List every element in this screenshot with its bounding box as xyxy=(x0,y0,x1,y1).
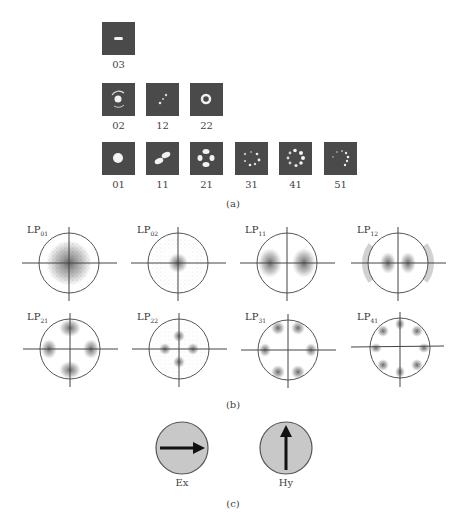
mode-12-pattern-icon xyxy=(146,83,179,116)
plot-label-lp02: LP02 xyxy=(137,224,158,237)
panel-c-caption: (c) xyxy=(213,498,253,509)
mode-label: 11 xyxy=(146,179,179,190)
polarization-diagrams xyxy=(0,415,466,485)
hy-field-diagram xyxy=(260,422,312,474)
mode-label: 03 xyxy=(102,59,135,70)
mode-01-pattern-icon xyxy=(102,142,135,175)
plot-label-lp31: LP31 xyxy=(245,311,266,324)
mode-03-pattern-icon xyxy=(102,22,135,55)
mode-image-01 xyxy=(102,142,135,175)
mode-image-11 xyxy=(146,142,179,175)
mode-label: 22 xyxy=(190,120,223,131)
mode-21-pattern-icon xyxy=(190,142,223,175)
plot-label-lp22: LP22 xyxy=(137,311,158,324)
lp-text: LP xyxy=(137,311,150,322)
lp-text: LP xyxy=(27,311,40,322)
lp-text: LP xyxy=(245,311,258,322)
mode-label: 21 xyxy=(190,179,223,190)
mode-41-pattern-icon xyxy=(279,142,312,175)
mode-label: 12 xyxy=(146,120,179,131)
hy-label: Hy xyxy=(266,477,306,488)
mode-image-02 xyxy=(102,83,135,116)
mode-22-pattern-icon xyxy=(190,83,223,116)
plot-lp11 xyxy=(240,227,335,301)
panel-a-caption: (a) xyxy=(213,198,253,209)
mode-image-21 xyxy=(190,142,223,175)
lp-subscript: 31 xyxy=(258,317,266,324)
mode-label: 31 xyxy=(235,179,268,190)
plot-label-lp41: LP41 xyxy=(357,311,378,324)
mode-51-pattern-icon xyxy=(324,142,357,175)
plot-lp01 xyxy=(22,227,117,301)
lp-subscript: 41 xyxy=(370,317,378,324)
plot-label-lp01: LP01 xyxy=(27,224,48,237)
lp-text: LP xyxy=(357,311,370,322)
lp-subscript: 01 xyxy=(40,230,48,237)
lp-text: LP xyxy=(245,224,258,235)
mode-image-03 xyxy=(102,22,135,55)
plot-label-lp12: LP12 xyxy=(357,224,378,237)
lp-text: LP xyxy=(357,224,370,235)
ex-label: Ex xyxy=(162,477,202,488)
ex-field-diagram xyxy=(156,422,208,474)
lp-mode-field-plots xyxy=(0,215,466,415)
mode-11-pattern-icon xyxy=(146,142,179,175)
lp-text: LP xyxy=(27,224,40,235)
plot-lp21 xyxy=(23,313,118,387)
mode-image-31 xyxy=(235,142,268,175)
lp-subscript: 12 xyxy=(370,230,378,237)
lp-subscript: 11 xyxy=(258,230,266,237)
mode-image-22 xyxy=(190,83,223,116)
mode-image-51 xyxy=(324,142,357,175)
mode-image-41 xyxy=(279,142,312,175)
mode-label: 41 xyxy=(279,179,312,190)
lp-subscript: 02 xyxy=(150,230,158,237)
lp-subscript: 22 xyxy=(150,317,158,324)
lp-subscript: 21 xyxy=(40,317,48,324)
mode-label: 02 xyxy=(102,120,135,131)
mode-label: 51 xyxy=(324,179,357,190)
mode-image-12 xyxy=(146,83,179,116)
plot-label-lp21: LP21 xyxy=(27,311,48,324)
panel-b-caption: (b) xyxy=(213,399,253,410)
mode-02-pattern-icon xyxy=(102,83,135,116)
lp-text: LP xyxy=(137,224,150,235)
mode-31-pattern-icon xyxy=(235,142,268,175)
plot-lp02 xyxy=(131,227,226,301)
plot-lp22 xyxy=(132,313,227,387)
plot-label-lp11: LP11 xyxy=(245,224,266,237)
mode-label: 01 xyxy=(102,179,135,190)
plot-lp12 xyxy=(351,227,446,301)
plot-lp31 xyxy=(241,314,336,388)
